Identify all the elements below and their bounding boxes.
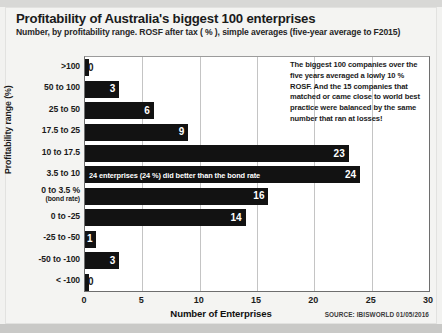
- x-axis-tick-label: 30: [423, 295, 433, 305]
- x-axis-tick-label: 10: [194, 295, 204, 305]
- y-axis-category-label: -25 to -50: [43, 233, 80, 242]
- bar[interactable]: 14: [85, 209, 246, 226]
- x-axis-tick-label: 15: [251, 295, 261, 305]
- bar-value-label: 24: [345, 170, 356, 180]
- bar-value-label: 9: [179, 127, 185, 137]
- bar-value-label: 6: [144, 106, 150, 116]
- bar[interactable]: 3: [85, 81, 119, 98]
- chart-figure: Profitability of Australia's biggest 100…: [0, 0, 442, 333]
- bar[interactable]: 0: [85, 274, 89, 291]
- bar[interactable]: 23: [85, 145, 349, 162]
- bar-value-label: 14: [230, 213, 241, 223]
- y-axis-category-label: 50 to 100: [44, 83, 80, 92]
- bar-value-label: 3: [110, 84, 116, 94]
- chart-title: Profitability of Australia's biggest 100…: [16, 11, 315, 26]
- y-axis-title: Profitability range (%): [3, 85, 13, 174]
- bar-value-label: 1: [87, 234, 93, 244]
- y-axis-category-label: < -100: [56, 276, 80, 285]
- bar[interactable]: 2424 enterprises (24 %) did better than …: [85, 166, 360, 183]
- bar-value-label: 16: [253, 191, 264, 201]
- bar[interactable]: 0: [85, 59, 89, 76]
- top-band: [0, 0, 442, 7]
- y-axis-category-label: 10 to 17.5: [42, 148, 80, 157]
- bar[interactable]: 9: [85, 124, 188, 141]
- x-axis-tick-label: 0: [81, 295, 86, 305]
- y-axis-category-label: 25 to 50: [49, 105, 80, 114]
- bar[interactable]: 16: [85, 188, 268, 205]
- chart-subtitle: Number, by profitability range. ROSF aft…: [16, 27, 400, 37]
- bar-row: 0: [85, 272, 429, 293]
- y-axis-category-label: -50 to -100: [39, 255, 80, 264]
- y-axis-category-label: 3.5 to 10: [47, 169, 81, 178]
- bar-row: 23: [85, 143, 429, 164]
- bar-row: 3: [85, 250, 429, 271]
- x-axis-tick-label: 20: [308, 295, 318, 305]
- bond-rate-annotation: 24 enterprises (24 %) did better than th…: [89, 170, 260, 179]
- bar-row: 14: [85, 207, 429, 228]
- bar-value-label: 0: [88, 63, 94, 73]
- y-axis-category-label: 0 to -25: [51, 212, 80, 221]
- bar-row: 1: [85, 229, 429, 250]
- x-axis-tick-label: 5: [139, 295, 144, 305]
- bar[interactable]: 3: [85, 252, 119, 269]
- bottom-band: [0, 324, 442, 333]
- source-note: SOURCE: IBISWORLD 01/05/2016: [325, 311, 429, 318]
- bar-value-label: 3: [110, 256, 116, 266]
- y-axis-category-label: 0 to 3.5 %(bond rate): [41, 186, 80, 202]
- x-axis-tick-label: 25: [366, 295, 376, 305]
- y-axis-category-sublabel: (bond rate): [41, 195, 80, 202]
- commentary-annotation: The biggest 100 companies over the five …: [290, 60, 425, 125]
- bar[interactable]: 6: [85, 102, 154, 119]
- bar[interactable]: 1: [85, 231, 96, 248]
- y-axis-category-label: 17.5 to 25: [42, 126, 80, 135]
- bar-value-label: 0: [88, 277, 94, 287]
- y-axis-category-label: >100: [61, 62, 80, 71]
- bar-value-label: 23: [334, 149, 345, 159]
- bar-row: 2424 enterprises (24 %) did better than …: [85, 164, 429, 185]
- bar-row: 16: [85, 186, 429, 207]
